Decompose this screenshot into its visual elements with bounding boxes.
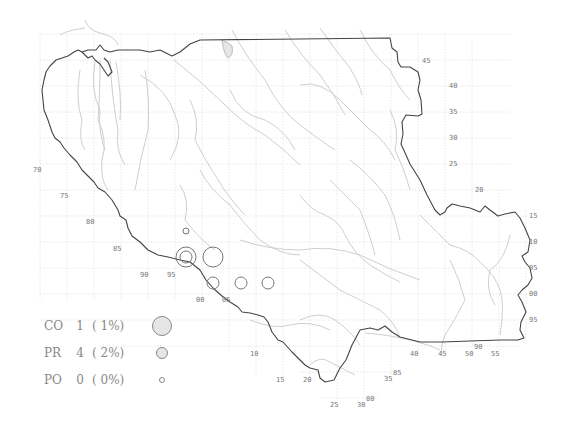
marker-pr: [262, 277, 274, 289]
markers: [176, 228, 274, 289]
tick-label: 90: [140, 271, 148, 279]
tick-label: 05: [222, 296, 230, 304]
marker-co: [176, 247, 196, 267]
legend-count: 4: [72, 346, 84, 360]
legend-row-pr: PR 4 ( 2%): [44, 339, 182, 366]
tick-label: 50: [465, 350, 473, 358]
tick-label: 80: [366, 395, 374, 403]
tick-label: 75: [60, 192, 68, 200]
tick-label: 05: [529, 264, 537, 272]
tick-label: 70: [33, 166, 41, 174]
tick-label: 80: [86, 218, 94, 226]
tick-label: 95: [529, 316, 537, 324]
tick-label: 85: [393, 369, 401, 377]
tick-label: 20: [303, 376, 311, 384]
tick-label: 30: [357, 401, 365, 409]
circle-symbol-icon: [142, 347, 182, 359]
legend-row-po: PO 0 ( 0%): [44, 366, 182, 393]
legend-percent: ( 1%): [84, 319, 142, 333]
tick-label: 15: [529, 212, 537, 220]
tick-label: 40: [410, 350, 418, 358]
legend-count: 0: [72, 373, 84, 387]
tick-label: 25: [449, 160, 457, 168]
legend-percent: ( 0%): [84, 373, 142, 387]
marker-co: [203, 247, 223, 267]
lake: [222, 40, 233, 58]
tick-label: 95: [167, 271, 175, 279]
tick-label: 00: [529, 290, 537, 298]
tick-label: 85: [113, 245, 121, 253]
legend-percent: ( 2%): [84, 346, 142, 360]
legend: CO 1 ( 1%) PR 4 ( 2%) PO 0 ( 0%): [44, 312, 182, 393]
tick-label: 20: [475, 186, 483, 194]
tick-label: 90: [474, 343, 482, 351]
tick-label: 40: [449, 82, 457, 90]
tick-label: 55: [491, 350, 499, 358]
tick-label: 10: [529, 238, 537, 246]
legend-code: CO: [44, 319, 72, 333]
tick-label: 35: [384, 375, 392, 383]
tick-label: 45: [422, 57, 430, 65]
tick-label: 15: [276, 376, 284, 384]
tick-label: 00: [196, 296, 204, 304]
legend-count: 1: [72, 319, 84, 333]
legend-code: PR: [44, 346, 72, 360]
tick-label: 10: [250, 350, 258, 358]
circle-symbol-icon: [142, 316, 182, 336]
tick-label: 30: [449, 134, 457, 142]
tick-label: 45: [438, 350, 446, 358]
legend-row-co: CO 1 ( 1%): [44, 312, 182, 339]
circle-symbol-icon: [142, 377, 182, 383]
tick-label: 25: [330, 401, 338, 409]
marker-po: [183, 228, 189, 234]
legend-code: PO: [44, 373, 72, 387]
marker-pr: [235, 277, 247, 289]
tick-label: 35: [449, 108, 457, 116]
